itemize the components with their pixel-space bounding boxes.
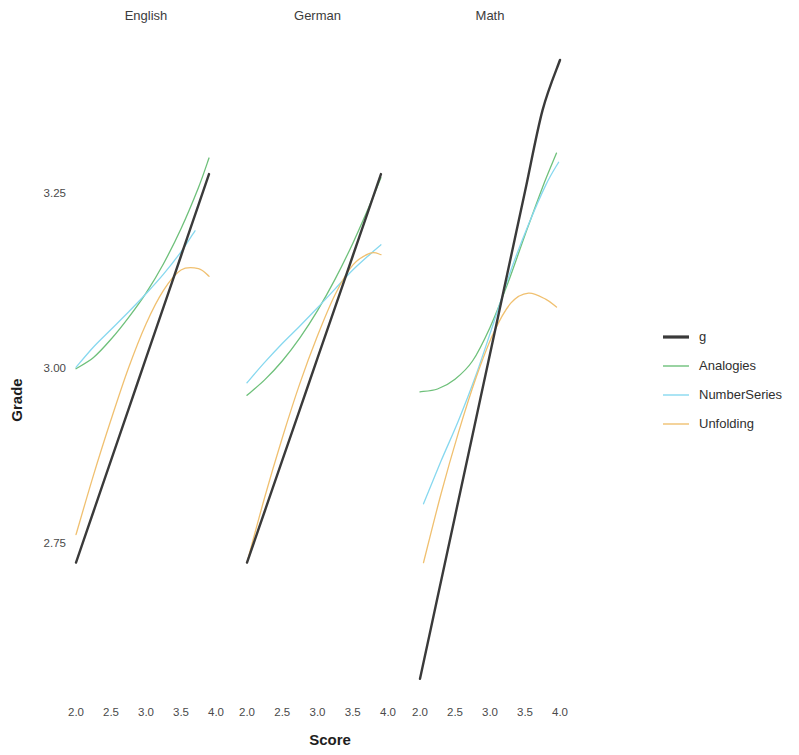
x-tick-label: 4.0 [208, 706, 224, 718]
series-line-numberseries [424, 162, 559, 504]
chart-legend: gAnalogiesNumberSeriesUnfolding [663, 329, 783, 431]
x-axis-tick-labels: 2.02.53.03.54.02.02.53.03.54.02.02.53.03… [68, 706, 568, 718]
x-tick-label: 3.0 [310, 706, 326, 718]
x-tick-label: 3.0 [482, 706, 498, 718]
x-tick-label: 2.5 [274, 706, 290, 718]
series-line-unfolding [247, 253, 381, 563]
chart-figure: EnglishGermanMath 3.253.002.75 2.02.53.0… [0, 0, 799, 755]
series-line-numberseries [76, 231, 195, 367]
panel-english [76, 158, 209, 563]
facet-strip-label-math: Math [476, 8, 505, 23]
facet-strip-labels: EnglishGermanMath [125, 8, 505, 23]
x-tick-label: 2.0 [412, 706, 428, 718]
series-line-analogies [76, 158, 209, 369]
x-tick-label: 4.0 [380, 706, 396, 718]
legend-label-unfolding: Unfolding [699, 416, 754, 431]
series-line-g [76, 174, 209, 562]
y-tick-label: 2.75 [44, 537, 66, 549]
x-tick-label: 2.5 [103, 706, 119, 718]
series-line-analogies [420, 153, 557, 392]
facet-strip-label-english: English [125, 8, 168, 23]
panel-german [247, 174, 381, 562]
x-tick-label: 2.0 [239, 706, 255, 718]
x-tick-label: 3.5 [173, 706, 189, 718]
series-line-analogies [247, 178, 381, 396]
x-tick-label: 3.5 [345, 706, 361, 718]
series-line-unfolding [76, 268, 209, 535]
legend-label-numberseries: NumberSeries [699, 387, 783, 402]
x-axis-title: Score [309, 731, 351, 748]
y-tick-label: 3.00 [44, 362, 66, 374]
y-axis-title: Grade [8, 378, 25, 421]
y-axis-tick-labels: 3.253.002.75 [44, 187, 66, 549]
legend-label-analogies: Analogies [699, 358, 757, 373]
panel-math [420, 60, 560, 679]
series-line-g [247, 174, 381, 562]
x-tick-label: 3.5 [517, 706, 533, 718]
y-tick-label: 3.25 [44, 187, 66, 199]
faceted-line-chart: EnglishGermanMath 3.253.002.75 2.02.53.0… [0, 0, 799, 755]
legend-label-g: g [699, 329, 706, 344]
series-line-g [420, 60, 560, 679]
facet-panels [76, 60, 560, 679]
x-tick-label: 4.0 [552, 706, 568, 718]
x-tick-label: 3.0 [138, 706, 154, 718]
facet-strip-label-german: German [294, 8, 341, 23]
x-tick-label: 2.0 [68, 706, 84, 718]
series-line-numberseries [247, 245, 381, 383]
x-tick-label: 2.5 [447, 706, 463, 718]
